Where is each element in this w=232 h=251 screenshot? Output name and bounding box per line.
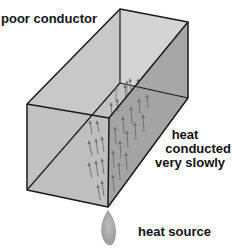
label-heat-line2: conducted [155,142,231,156]
label-heat-line1: heat [155,128,231,142]
label-poor-conductor: poor conductor [1,12,97,26]
box-front-face [27,104,109,207]
poor-conductor-box-diagram [0,0,232,251]
label-heat-conducted: heat conducted very slowly [155,128,231,170]
label-heat-line3: very slowly [155,156,231,170]
flame-icon [101,210,116,245]
label-heat-source: heat source [138,225,211,239]
